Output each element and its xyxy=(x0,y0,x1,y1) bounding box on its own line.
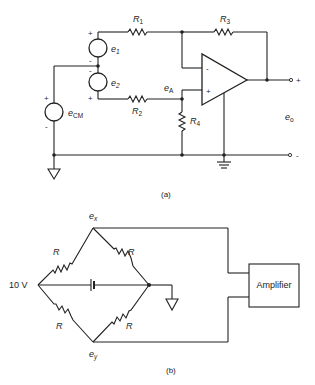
bridge-resistor-bottom-right xyxy=(93,285,149,342)
e1-plus-sign: + xyxy=(88,29,93,38)
figure-b-caption: (b) xyxy=(166,366,176,375)
amplifier-block: Amplifier xyxy=(249,264,299,307)
output-plus-sign: + xyxy=(296,76,301,85)
opamp-inverting-sign: - xyxy=(206,64,209,73)
r-label-bottom-left: R xyxy=(56,321,63,331)
output-minus-sign: - xyxy=(296,151,299,160)
eo-label: eo xyxy=(285,112,294,123)
supply-label: 10 V xyxy=(9,280,28,290)
e1-minus-sign: - xyxy=(89,56,92,65)
e2-minus-sign: - xyxy=(89,66,92,75)
resistor-r4 xyxy=(179,112,185,131)
amplifier-label: Amplifier xyxy=(256,280,291,290)
figure-a: + - e1 - + e2 + - eCM R1 xyxy=(44,14,301,199)
figure-b: R R R R 10 V ex ey xyxy=(9,211,299,375)
ea-label: eA xyxy=(164,83,174,94)
e2-plus-sign: + xyxy=(88,94,93,103)
battery-icon xyxy=(38,279,149,291)
r3-label: R3 xyxy=(220,14,231,25)
r2-label: R2 xyxy=(132,106,143,117)
ex-label: ex xyxy=(89,211,98,222)
voltage-source-ecm: + - eCM xyxy=(44,94,83,155)
bridge-resistor-top-right xyxy=(93,228,149,285)
output-terminal-minus xyxy=(288,153,291,156)
ecm-minus-sign: - xyxy=(45,122,48,131)
voltage-source-e2: - + e2 xyxy=(88,66,120,103)
output-terminal-plus xyxy=(289,78,292,81)
bridge-resistor-bottom-left xyxy=(38,285,93,342)
bridge-resistor-top-left xyxy=(38,228,93,285)
r1-label: R1 xyxy=(133,14,144,25)
signal-ground-icon xyxy=(48,155,60,179)
r-label-bottom-right: R xyxy=(126,321,133,331)
resistor-r2 xyxy=(128,96,147,102)
figure-a-caption: (a) xyxy=(161,190,171,199)
r4-label: R4 xyxy=(190,116,201,127)
r-label-top-left: R xyxy=(53,247,60,257)
ecm-plus-sign: + xyxy=(44,94,49,103)
r-label-top-right: R xyxy=(128,247,135,257)
earth-ground-icon xyxy=(217,155,231,168)
junction-dot xyxy=(265,78,269,82)
junction-dot xyxy=(180,153,184,157)
signal-ground-icon xyxy=(166,285,178,310)
resistor-r3 xyxy=(214,29,233,35)
e1-label: e1 xyxy=(111,44,120,55)
e2-label: e2 xyxy=(111,78,120,89)
voltage-source-e1: + - e1 xyxy=(88,29,120,66)
resistor-r1 xyxy=(128,29,147,35)
opamp-noninverting-sign: + xyxy=(206,87,211,96)
ecm-label: eCM xyxy=(68,108,83,119)
ey-label: ey xyxy=(89,349,98,361)
